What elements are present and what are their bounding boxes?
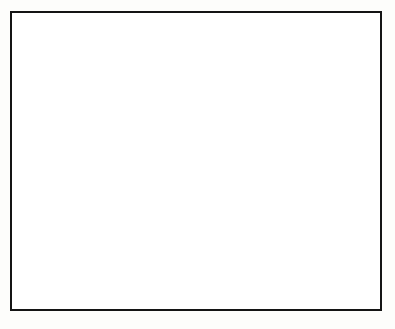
chart-plot [0, 0, 395, 329]
figure-canvas [0, 0, 395, 329]
